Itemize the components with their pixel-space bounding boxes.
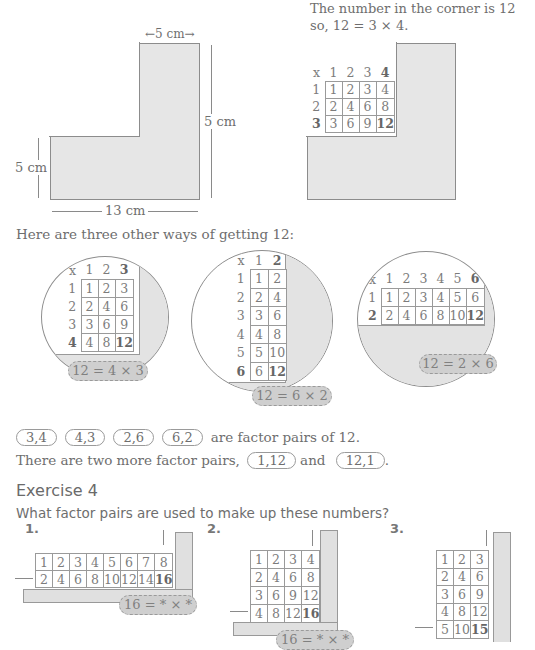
exercise-1-table: 12345678 246810121416 <box>35 553 173 588</box>
bottom-dimension-label: 13 cm <box>102 203 148 218</box>
right-arrow-icon <box>230 611 248 612</box>
down-arrow-icon <box>486 530 487 546</box>
right-dimension-label: 5 cm <box>204 114 236 129</box>
circle-4x3: x123 1123 2246 3369 44812 <box>41 256 169 378</box>
circle-6x2: x12 112 224 336 448 5510 6612 <box>191 250 333 392</box>
exercise-3-table: 123 246 369 4812 51015 <box>436 550 489 639</box>
exercise-question: What factor pairs are used to make up th… <box>16 505 389 521</box>
equation-cloud-6x2: 12 = 6 × 2 <box>252 386 332 406</box>
right-arrow-icon <box>415 627 433 628</box>
multiplication-table-12: x 1 2 3 4 1 1234 2 2468 3 36912 <box>308 64 395 133</box>
exercise-item-number: 1. <box>25 521 39 536</box>
factor-pair-badge: 1,12 <box>247 452 296 469</box>
equation-cloud-4x3: 12 = 4 × 3 <box>68 361 148 381</box>
exercise-item-number: 2. <box>207 521 221 536</box>
factor-pair-badge: 6,2 <box>162 429 203 446</box>
top-dimension-label: ←5 cm→ <box>145 27 195 41</box>
factor-pair-badge: 12,1 <box>336 452 385 469</box>
equation-cloud-16-b: 16 = * × * <box>276 630 354 650</box>
down-arrow-icon <box>163 530 164 545</box>
factor-pairs-line: 3,44,32,66,2are factor pairs of 12. <box>16 429 360 446</box>
equation-cloud-16-a: 16 = * × * <box>119 595 197 615</box>
factor-pair-badge: 3,4 <box>16 429 57 446</box>
right-arrow-icon <box>15 578 33 579</box>
factor-pair-badge: 2,6 <box>113 429 154 446</box>
exercise-title: Exercise 4 <box>16 481 98 500</box>
more-factor-pairs-line: There are two more factor pairs, 1,12and… <box>16 452 389 469</box>
torn-strip-vertical <box>320 530 338 630</box>
equation-cloud-2x6: 12 = 2 × 6 <box>419 354 497 374</box>
left-dimension-label: 5 cm <box>15 160 47 175</box>
exercise-item-number: 3. <box>390 521 404 536</box>
three-ways-intro: Here are three other ways of getting 12: <box>16 226 294 242</box>
torn-strip-vertical <box>493 532 511 642</box>
corner-explanation-line2: so, 12 = 3 × 4. <box>310 18 408 33</box>
factor-pair-badge: 4,3 <box>65 429 106 446</box>
exercise-2-table: 1234 2468 36912 481216 <box>250 550 320 623</box>
down-arrow-icon <box>312 530 313 546</box>
corner-explanation-line1: The number in the corner is 12 <box>310 1 516 16</box>
